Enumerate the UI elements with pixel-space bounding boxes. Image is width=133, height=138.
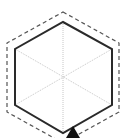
- solid-hexagon[interactable]: [15, 22, 112, 133]
- hexagon-diagram: [0, 0, 133, 138]
- inner-diagonals: [15, 22, 112, 133]
- arrow-cursor-icon: [66, 126, 80, 138]
